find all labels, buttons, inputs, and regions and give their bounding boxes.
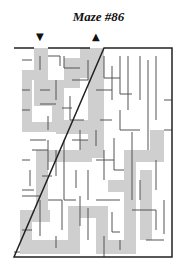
maze-board[interactable] bbox=[0, 0, 187, 274]
solution-path bbox=[20, 48, 164, 254]
